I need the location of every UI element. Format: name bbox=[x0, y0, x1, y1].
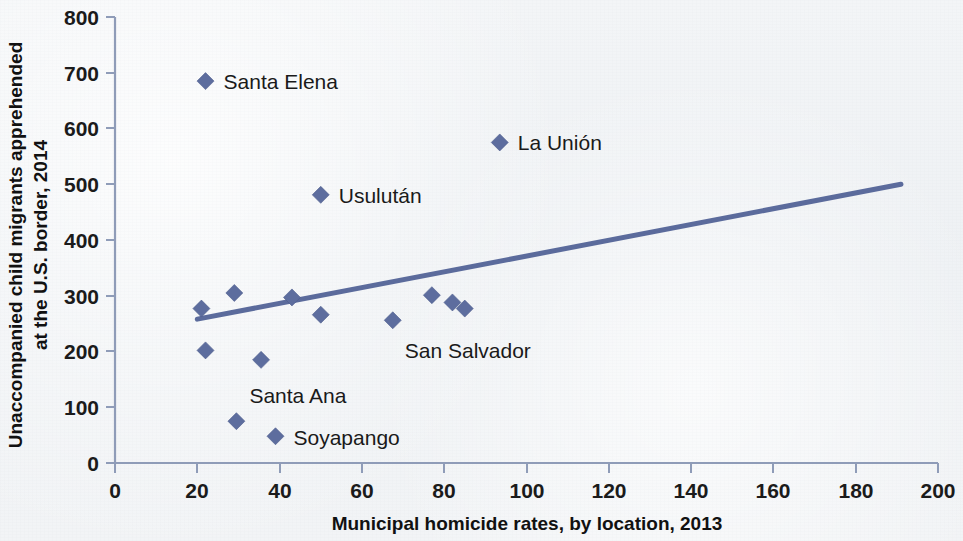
data-point-marker bbox=[423, 287, 440, 304]
data-point-marker bbox=[312, 306, 329, 323]
x-tick-label-60: 60 bbox=[350, 479, 373, 502]
data-point-marker bbox=[491, 134, 508, 151]
x-axis-title: Municipal homicide rates, by location, 2… bbox=[332, 513, 723, 534]
x-axis-tick-labels: 0 20 40 60 80 100 120 140 160 180 200 bbox=[109, 479, 955, 502]
data-point-markers bbox=[193, 73, 508, 445]
x-tick-label-0: 0 bbox=[109, 479, 121, 502]
y-tick-label-0: 0 bbox=[87, 452, 99, 475]
data-point-labels: Santa ElenaLa UniónUsulutánSan SalvadorS… bbox=[224, 70, 602, 449]
data-point-marker bbox=[193, 300, 210, 317]
x-tick-label-160: 160 bbox=[755, 479, 790, 502]
data-point-marker bbox=[226, 284, 243, 301]
x-tick-label-40: 40 bbox=[268, 479, 291, 502]
trend-line bbox=[197, 184, 901, 319]
x-tick-label-140: 140 bbox=[673, 479, 708, 502]
data-point-marker bbox=[197, 73, 214, 90]
data-point-label: La Unión bbox=[518, 131, 602, 154]
y-tick-label-700: 700 bbox=[64, 62, 99, 85]
y-axis-title-line2: at the U.S. border, 2014 bbox=[30, 140, 51, 351]
data-point-label: Santa Elena bbox=[224, 70, 339, 93]
x-tick-label-80: 80 bbox=[432, 479, 455, 502]
y-tick-label-800: 800 bbox=[64, 6, 99, 29]
data-point-marker bbox=[312, 186, 329, 203]
y-axis-title-line1: Unaccompanied child migrants apprehended bbox=[5, 42, 26, 448]
data-point-label: Santa Ana bbox=[249, 384, 346, 407]
data-point-label: Soyapango bbox=[293, 426, 399, 449]
x-tick-label-120: 120 bbox=[591, 479, 626, 502]
x-tick-label-180: 180 bbox=[838, 479, 873, 502]
data-point-marker bbox=[228, 413, 245, 430]
y-tick-label-100: 100 bbox=[64, 396, 99, 419]
scatter-chart: Unaccompanied child migrants apprehended… bbox=[0, 0, 963, 541]
x-tick-label-20: 20 bbox=[185, 479, 208, 502]
plot-area: Unaccompanied child migrants apprehended… bbox=[0, 0, 963, 541]
y-tick-label-300: 300 bbox=[64, 285, 99, 308]
data-point-label: Usulután bbox=[339, 184, 422, 207]
y-tick-label-400: 400 bbox=[64, 229, 99, 252]
y-tick-label-500: 500 bbox=[64, 173, 99, 196]
y-axis-tick-labels: 0 100 200 300 400 500 600 700 800 bbox=[64, 6, 99, 475]
y-tick-label-200: 200 bbox=[64, 340, 99, 363]
x-tick-label-200: 200 bbox=[920, 479, 955, 502]
data-point-label: San Salvador bbox=[405, 339, 531, 362]
data-point-marker bbox=[267, 428, 284, 445]
data-point-marker bbox=[253, 351, 270, 368]
x-tick-label-100: 100 bbox=[509, 479, 544, 502]
y-axis-ticks bbox=[106, 17, 115, 463]
y-tick-label-600: 600 bbox=[64, 117, 99, 140]
data-point-marker bbox=[197, 342, 214, 359]
x-axis-ticks bbox=[115, 463, 938, 473]
data-point-marker bbox=[384, 312, 401, 329]
